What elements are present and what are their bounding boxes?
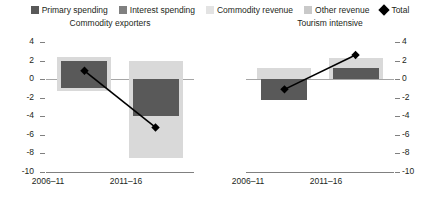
xlabel-left-1: 2011–16 [86,176,166,186]
legend-label-total: Total [391,5,409,15]
y-tick-label: -4 [8,111,34,120]
total-line [84,71,155,128]
y-tick-label: -4 [402,111,428,120]
y-tick-label: -2 [8,93,34,102]
legend-label-interest-spending: Interest spending [130,5,195,15]
y-tick-mark [40,153,45,154]
y-tick-label: 2 [402,56,428,65]
legend-swatch-primary-spending [31,6,39,14]
axis-baseline [246,172,394,173]
y-tick-label: 0 [8,74,34,83]
xlabel-right-1: 2011–16 [286,176,366,186]
legend-item-total: Total [380,5,409,15]
legend-item-commodity-revenue: Commodity revenue [206,5,293,15]
legend-swatch-other-revenue [304,6,312,14]
legend-item-primary-spending: Primary spending [31,5,108,15]
xlabel-left-0: 2006–11 [8,176,88,186]
y-tick-label: -6 [402,130,428,139]
y-tick-label: -8 [8,148,34,157]
y-tick-label: -10 [8,167,34,176]
y-tick-label: -6 [8,130,34,139]
legend-label-commodity-revenue: Commodity revenue [217,5,293,15]
total-series [246,42,394,172]
y-tick-label: -10 [402,167,428,176]
y-tick-mark [395,172,400,173]
y-tick-mark [395,42,400,43]
total-marker-diamond-icon [280,85,288,93]
y-tick-label: 4 [8,37,34,46]
total-marker-diamond-icon [351,51,359,59]
y-tick-mark [395,135,400,136]
legend-item-interest-spending: Interest spending [119,5,195,15]
plot-area-left: 420-2-4-6-8-10 [46,42,194,172]
y-tick-mark [40,172,45,173]
y-tick-mark [395,61,400,62]
legend-swatch-interest-spending [119,6,127,14]
y-tick-label: 2 [8,56,34,65]
y-tick-mark [40,61,45,62]
y-tick-label: 0 [402,74,428,83]
y-tick-mark [395,98,400,99]
y-tick-mark [40,98,45,99]
diamond-icon [379,4,390,15]
xlabel-right-0: 2006–11 [208,176,288,186]
y-tick-mark [395,153,400,154]
y-tick-label: 4 [402,37,428,46]
y-tick-mark [40,79,45,80]
panel-tourism-intensive: Tourism intensive 420-2-4-6-8-10 2006–11… [220,18,440,210]
panel-title-right: Tourism intensive [220,18,440,28]
legend-label-primary-spending: Primary spending [42,5,108,15]
total-series [46,42,194,172]
y-tick-mark [395,116,400,117]
plot-area-right: 420-2-4-6-8-10 [246,42,394,172]
y-tick-mark [395,79,400,80]
y-tick-label: -8 [402,148,428,157]
y-tick-mark [40,116,45,117]
y-tick-mark [40,42,45,43]
panel-commodity-exporters: Commodity exporters 420-2-4-6-8-10 2006–… [0,18,220,210]
chart-legend: Primary spending Interest spending Commo… [0,3,440,17]
panel-title-left: Commodity exporters [0,18,220,28]
axis-baseline [46,172,194,173]
legend-swatch-commodity-revenue [206,6,214,14]
total-line [284,55,355,89]
legend-item-other-revenue: Other revenue [304,5,369,15]
y-tick-mark [40,135,45,136]
legend-label-other-revenue: Other revenue [315,5,369,15]
y-tick-label: -2 [402,93,428,102]
